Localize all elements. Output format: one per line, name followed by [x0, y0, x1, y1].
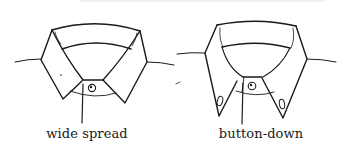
button-down-collar-drawing	[176, 21, 336, 124]
wide-spread-label: wide spread	[0, 126, 174, 141]
button-down-label: button-down	[174, 126, 348, 141]
wide-spread-collar-drawing	[15, 24, 174, 123]
